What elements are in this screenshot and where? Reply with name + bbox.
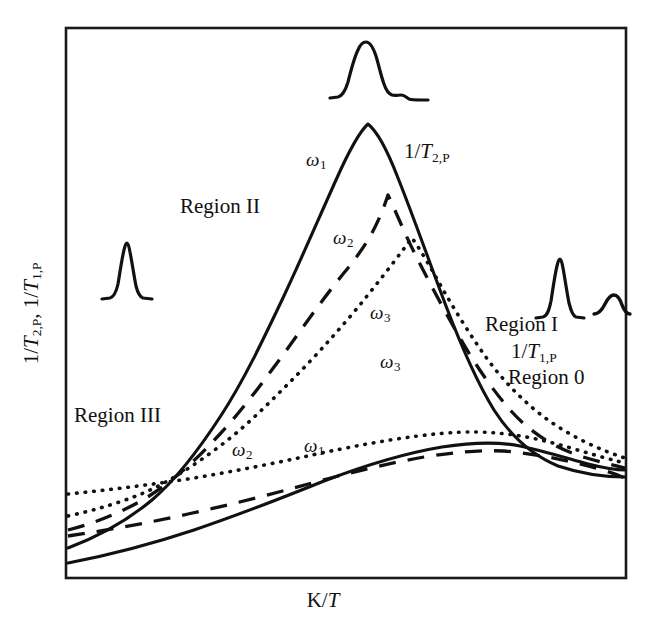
relaxation-rate-figure: Region III Region II Region I Region 0 1… (0, 0, 646, 627)
curve-label-t1p-omega3: ω3 (380, 352, 400, 373)
curve-label-t1p-omega1: ω1 (304, 436, 324, 457)
omega-subscript: 1 (317, 443, 324, 458)
omega-subscript: 1 (319, 157, 326, 172)
rate-t1p-prefix: 1/ (511, 339, 527, 363)
omega-glyph: ω (370, 302, 383, 323)
rate-t2p-prefix: 1/ (404, 139, 420, 163)
rate-t1p-symbol: T (527, 339, 539, 363)
curve-label-t2p-omega2: ω2 (333, 228, 353, 249)
rate-t1p-label: 1/T1,P (511, 341, 557, 364)
x-axis-title: K/T (0, 588, 646, 613)
y-axis-t1-symbol: T (19, 280, 43, 292)
omega-glyph: ω (304, 435, 317, 456)
rate-t1p-subscript: 1,P (539, 350, 557, 365)
omega-subscript: 2 (346, 235, 353, 250)
y-axis-title: 1/T2,P, 1/T1,P (19, 223, 46, 403)
omega-subscript: 3 (383, 310, 390, 325)
omega-glyph: ω (306, 149, 319, 170)
region-0-label: Region 0 (508, 367, 584, 388)
x-axis-t: T (328, 588, 340, 612)
curve-label-t2p-omega1: ω1 (306, 150, 326, 171)
y-axis-prefix-1: 1/ (19, 348, 43, 364)
omega-subscript: 2 (245, 447, 252, 462)
rate-t2p-subscript: 2,P (432, 150, 450, 165)
y-axis-t2-symbol: T (19, 336, 43, 348)
region-i-label: Region I (485, 314, 558, 335)
omega-glyph: ω (232, 439, 245, 460)
curve-label-t2p-omega3: ω3 (370, 303, 390, 324)
y-axis-separator: , 1/ (19, 292, 43, 319)
region-ii-label: Region II (180, 196, 260, 217)
curve-label-t1p-omega2: ω2 (232, 440, 252, 461)
omega-glyph: ω (333, 227, 346, 248)
region-iii-label: Region III (74, 405, 161, 426)
rate-t2p-symbol: T (420, 139, 432, 163)
y-axis-t2-subscript: 2,P (29, 319, 44, 337)
x-axis-k: K/ (307, 588, 328, 612)
rate-t2p-label: 1/T2,P (404, 141, 450, 164)
omega-subscript: 3 (393, 359, 400, 374)
omega-glyph: ω (380, 351, 393, 372)
y-axis-t1-subscript: 1,P (29, 262, 44, 280)
